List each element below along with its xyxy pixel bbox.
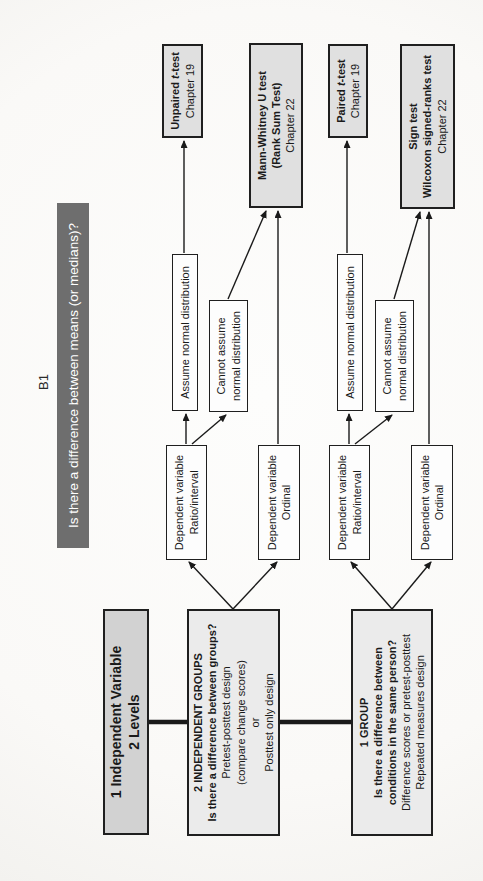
node-line: Is there a difference between groups? <box>205 623 219 821</box>
node-line: Sign test <box>406 103 420 149</box>
node-paired-t-test: Paired t-test Chapter 19 <box>328 44 368 138</box>
node-cannot-assume-groups: Cannot assume normal distribution <box>209 300 248 412</box>
node-line: Mann-Whitney U test <box>255 71 269 180</box>
node-dependent-ratio-groups: Dependent variable Ratio/interval <box>166 445 207 560</box>
node-line: Paired t-test <box>334 59 348 123</box>
rotated-flowchart-stage: B1 Is there a difference between means (… <box>0 0 483 881</box>
node-line: Assume normal distribution <box>343 266 357 399</box>
node-line: (Rank Sum Test) <box>269 83 283 169</box>
node-line: Assume normal distribution <box>178 266 192 399</box>
flowchart-screenshot: B1 Is there a difference between means (… <box>0 0 483 881</box>
node-cannot-assume-1group: Cannot assume normal distribution <box>375 300 414 412</box>
chapter-reference: Chapter 19 <box>183 64 197 118</box>
chapter-reference: Chapter 19 <box>348 64 362 118</box>
node-1-group: 1 GROUP Is there a difference between co… <box>351 609 433 836</box>
question-banner-text: Is there a difference between means (or … <box>66 223 81 528</box>
node-line: Dependent variable <box>172 455 186 550</box>
node-dependent-ordinal-1group: Dependent variable Ordinal <box>411 445 453 560</box>
node-line: Dependent variable <box>418 455 432 550</box>
node-assume-normal-1group: Assume normal distribution <box>337 254 363 411</box>
node-line: Posttest only design <box>262 673 276 771</box>
node-2-independent-groups: 2 INDEPENDENT GROUPS Is there a differen… <box>187 609 280 836</box>
chapter-reference: Chapter 22 <box>435 99 449 153</box>
node-line: Dependent variable <box>335 455 349 550</box>
node-dependent-ratio-1group: Dependent variable Ratio/interval <box>329 445 370 560</box>
node-dependent-ordinal-groups: Dependent variable Ordinal <box>258 445 300 560</box>
node-line: Ordinal <box>279 485 293 520</box>
chapter-reference: Chapter 22 <box>283 98 297 152</box>
node-independent-variable: 1 Independent Variable 2 Levels <box>103 609 149 835</box>
node-line: 2 INDEPENDENT GROUPS <box>191 653 205 792</box>
node-line: Wilcoxon signed-ranks test <box>420 55 434 198</box>
page-label: B1 <box>36 362 51 402</box>
node-line: Difference scores or pretest-posttest <box>399 634 413 811</box>
node-line: Ordinal <box>432 485 446 520</box>
node-line: or <box>248 718 262 728</box>
node-unpaired-t-test: Unpaired t-test Chapter 19 <box>162 44 203 138</box>
node-line: Ratio/interval <box>187 470 201 534</box>
node-line: conditions in the same person? <box>385 640 399 806</box>
node-line: Repeated measures design <box>413 655 427 790</box>
node-mann-whitney-u-test: Mann-Whitney U test (Rank Sum Test) Chap… <box>249 43 303 208</box>
node-assume-normal-groups: Assume normal distribution <box>172 254 198 411</box>
node-line: normal distribution <box>395 311 409 401</box>
node-line: (compare change scores) <box>234 660 248 785</box>
node-line: Pretest-posttest design <box>219 666 233 779</box>
node-sign-wilcoxon-test: Sign test Wilcoxon signed-ranks test Cha… <box>400 44 455 209</box>
node-line: Cannot assume <box>380 317 394 394</box>
node-line: Dependent variable <box>265 455 279 550</box>
node-line: Cannot assume <box>214 317 228 394</box>
node-line: 2 Levels <box>126 694 144 749</box>
question-banner: Is there a difference between means (or … <box>57 203 89 548</box>
node-line: Ratio/interval <box>350 470 364 534</box>
node-line: Unpaired t-test <box>168 52 182 130</box>
node-line: normal distribution <box>229 311 243 401</box>
node-line: 1 GROUP <box>357 698 371 748</box>
node-line: 1 Independent Variable <box>108 646 126 799</box>
node-line: Is there a difference between <box>371 647 385 798</box>
